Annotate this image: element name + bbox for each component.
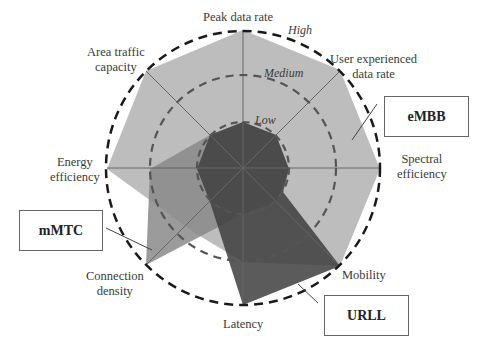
level-high-label: High <box>288 23 312 38</box>
level-low-label: Low <box>255 113 276 128</box>
axis-label-user: User experienced data rate <box>330 52 417 82</box>
urll-box: URLL <box>324 295 409 336</box>
axis-label-spectral: Spectral efficiency <box>397 152 447 182</box>
mmtc-box: mMTC <box>19 210 103 251</box>
embb-box: eMBB <box>384 96 469 137</box>
axis-label-peak: Peak data rate <box>203 10 273 25</box>
axis-label-latency: Latency <box>223 317 263 332</box>
mmtc-callout-line <box>106 228 152 250</box>
axis-label-mobility: Mobility <box>342 268 386 283</box>
axis-label-area: Area traffic capacity <box>87 45 145 75</box>
urll-callout-line <box>298 284 318 303</box>
axis-label-energy: Energy efficiency <box>50 155 100 185</box>
level-medium-label: Medium <box>264 66 303 81</box>
axis-label-connection: Connection density <box>86 269 144 299</box>
